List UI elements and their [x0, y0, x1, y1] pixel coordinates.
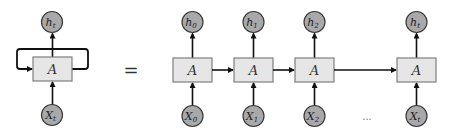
input-node-x0: X0	[182, 106, 203, 127]
cell-label: A	[47, 62, 57, 77]
input-node-x2: X2	[304, 106, 325, 127]
timestep-0: Ah0X0	[173, 12, 212, 127]
rnn-cell: A	[33, 57, 72, 81]
input-node-x1: X1	[243, 106, 264, 127]
rnn-cell: A	[173, 58, 212, 82]
equals-sign: =	[123, 59, 138, 80]
rnn-cell: A	[234, 58, 273, 82]
cell-label: A	[411, 63, 421, 78]
input-node-xt: Xt	[406, 106, 427, 127]
cell-label: A	[248, 63, 258, 78]
output-node-ht: ht	[42, 12, 63, 33]
cell-label: A	[309, 63, 319, 78]
cell-label: A	[187, 63, 197, 78]
rnn-cell: A	[397, 58, 436, 82]
output-node-h1: h1	[243, 12, 264, 33]
rolled-rnn: AhtXt	[17, 12, 88, 126]
output-node-h0: h0	[182, 12, 203, 33]
output-node-h2: h2	[304, 12, 325, 33]
input-node-xt: Xt	[42, 105, 63, 126]
timestep-2: Ah2X2	[295, 12, 334, 127]
equals-label: =	[123, 59, 138, 80]
ellipsis: ...	[362, 111, 372, 122]
rnn-cell: A	[295, 58, 334, 82]
timestep-3: AhtXt	[397, 12, 436, 127]
rnn-diagram: AhtXt = Ah0X0Ah1X1Ah2X2AhtXt...	[0, 0, 452, 132]
output-node-ht: ht	[406, 12, 427, 33]
timestep-1: Ah1X1	[234, 12, 273, 127]
unrolled-rnn: Ah0X0Ah1X1Ah2X2AhtXt...	[173, 12, 436, 127]
